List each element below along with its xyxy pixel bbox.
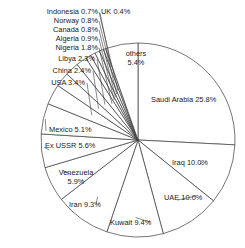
slice-label-kuwait: Kuwait 9.4% [110,219,151,228]
slice-label-ex-ussr: Ex USSR 5.6% [45,142,95,151]
slice-label-libya: Libya 2.3% [0,55,95,64]
slice-label-mexico: Mexico 5.1% [49,126,92,135]
slice-label-iraq: Iraq 10.0% [172,159,208,168]
slice-label-others-value: 5.4% [114,59,158,68]
slice-label-uk: UK 0.4% [101,8,130,17]
pie-chart: Indonesia 0.7% UK 0.4% Norway 0.8% Canad… [0,0,245,248]
slice-label-usa: USA 3.4% [0,79,85,88]
slice-label-china: China 2.4% [0,67,91,76]
slice-label-nigeria: Nigeria 1.8% [2,44,98,53]
slice-label-venezuela-value: 5.9% [46,178,106,187]
slice-label-saudi-arabia: Saudi Arabia 25.8% [151,96,216,105]
slice-label-iran: Iran 9.3% [69,201,101,210]
slice-label-uae: UAE 10.0% [164,194,202,203]
